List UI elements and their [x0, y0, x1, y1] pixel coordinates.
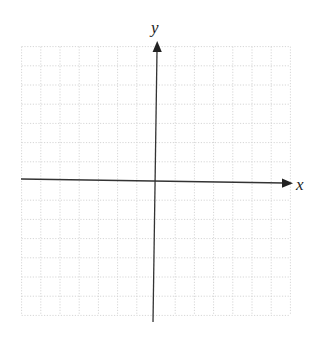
x-axis-arrowhead-icon [282, 179, 293, 188]
coordinate-plane: y x [0, 0, 329, 343]
y-axis-label: y [149, 18, 159, 37]
x-axis-label: x [295, 175, 304, 194]
y-axis-line [153, 51, 157, 322]
